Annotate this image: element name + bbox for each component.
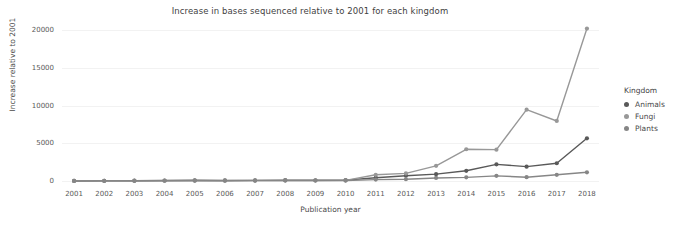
y-tick-label: 20000 [32,26,54,34]
x-tick-label: 2015 [488,190,506,198]
data-point [464,169,468,173]
legend-item-label: Animals [635,100,665,109]
x-tick-label: 2003 [125,190,143,198]
x-axis-title: Publication year [62,205,599,214]
data-point [223,179,227,183]
data-point [374,173,378,177]
y-tick-label: 10000 [32,102,54,110]
series-line [74,138,587,181]
legend-marker-icon [624,114,629,119]
x-tick-label: 2009 [306,190,324,198]
data-point [313,179,317,183]
data-point [72,179,76,183]
x-tick-label: 2006 [216,190,234,198]
data-point [585,26,589,30]
x-tick-label: 2005 [186,190,204,198]
legend-item-label: Fungi [635,112,655,121]
data-point [494,162,498,166]
series-plants [72,170,589,183]
data-point [193,179,197,183]
data-point [253,179,257,183]
series-lines [62,24,599,187]
y-tick-label: 5000 [36,139,54,147]
x-tick-label: 2013 [427,190,445,198]
x-tick-label: 2002 [95,190,113,198]
data-point [404,177,408,181]
x-tick-label: 2017 [548,190,566,198]
data-point [525,108,529,112]
data-point [494,174,498,178]
x-tick-label: 2008 [276,190,294,198]
data-point [585,170,589,174]
data-point [585,136,589,140]
x-tick-label: 2016 [518,190,536,198]
x-axis-tick-labels: 2001200220032004200520062007200820092010… [62,190,599,204]
x-tick-label: 2011 [367,190,385,198]
x-tick-label: 2004 [156,190,174,198]
legend-item-label: Plants [635,124,658,133]
y-axis-title: Increase relative to 2001 [8,10,17,120]
x-tick-label: 2010 [337,190,355,198]
y-tick-label: 15000 [32,64,54,72]
data-point [494,148,498,152]
data-point [555,173,559,177]
series-fungi [72,26,589,183]
legend-marker-icon [624,126,629,131]
data-point [162,179,166,183]
legend-marker-icon [624,102,629,107]
data-point [525,175,529,179]
legend-item-animals[interactable]: Animals [624,99,692,110]
data-point [434,176,438,180]
x-tick-label: 2012 [397,190,415,198]
data-point [404,171,408,175]
legend-item-plants[interactable]: Plants [624,123,692,134]
legend-items: AnimalsFungiPlants [624,99,692,134]
data-point [374,178,378,182]
legend-item-fungi[interactable]: Fungi [624,111,692,122]
data-point [555,119,559,123]
legend-title: Kingdom [624,86,692,95]
x-tick-label: 2001 [65,190,83,198]
data-point [283,178,287,182]
data-point [102,179,106,183]
chart-title: Increase in bases sequenced relative to … [0,6,620,16]
series-line [74,29,587,181]
chart-figure: Increase in bases sequenced relative to … [0,0,693,225]
x-tick-label: 2018 [578,190,596,198]
x-tick-label: 2014 [457,190,475,198]
x-tick-label: 2007 [246,190,264,198]
data-point [464,147,468,151]
legend: Kingdom AnimalsFungiPlants [624,86,692,135]
data-point [555,161,559,165]
data-point [343,178,347,182]
y-tick-label: 0 [50,177,54,185]
data-point [464,175,468,179]
data-point [132,179,136,183]
data-point [434,172,438,176]
data-point [434,164,438,168]
data-point [525,165,529,169]
plot-area [62,24,599,187]
